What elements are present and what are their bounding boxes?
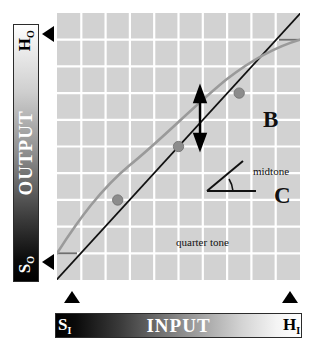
output-high-marker-icon xyxy=(42,26,54,42)
input-low-marker-icon xyxy=(64,291,80,303)
marker-quarter-tone xyxy=(113,195,123,205)
input-high-marker-icon xyxy=(282,291,298,303)
contrast-angle-icon xyxy=(207,161,256,191)
figure-canvas: quarter tone midtone three-quarter tone … xyxy=(0,0,326,342)
plot-area: quarter tone midtone three-quarter tone … xyxy=(57,13,300,280)
input-gradient-bar xyxy=(55,313,302,338)
output-gradient-bar xyxy=(13,24,39,282)
marker-three-quarter-tone xyxy=(234,88,244,98)
marker-midtone xyxy=(173,141,183,151)
output-low-marker-icon xyxy=(42,254,54,270)
